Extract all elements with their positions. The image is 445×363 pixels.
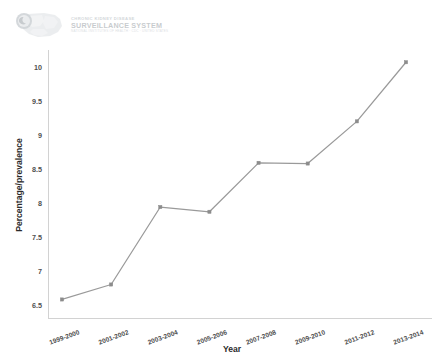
data-point-marker bbox=[257, 161, 260, 164]
x-tick-label: 2009-2010 bbox=[294, 328, 326, 345]
x-tick-label: 2001-2002 bbox=[97, 328, 129, 345]
data-point-marker bbox=[110, 283, 113, 286]
x-tick-label: 2007-2008 bbox=[245, 328, 277, 345]
x-tick-label: 2011-2012 bbox=[344, 328, 376, 345]
data-point-marker bbox=[306, 162, 309, 165]
data-point-marker bbox=[355, 120, 358, 123]
y-tick-label: 7 bbox=[38, 267, 42, 276]
y-tick-label: 9 bbox=[38, 131, 42, 140]
data-series-line bbox=[62, 62, 406, 299]
y-tick-label: 6.5 bbox=[32, 301, 42, 310]
chart-canvas: 6.577.588.599.510 1999-20002001-20022003… bbox=[0, 0, 445, 363]
data-point-markers bbox=[60, 61, 407, 301]
data-point-marker bbox=[208, 210, 211, 213]
y-tick-label: 8.5 bbox=[32, 165, 42, 174]
y-tick-label: 9.5 bbox=[32, 97, 42, 106]
x-tick-label: 2003-2004 bbox=[147, 328, 179, 345]
data-point-marker bbox=[159, 205, 162, 208]
y-tick-label: 10 bbox=[34, 63, 42, 72]
x-tick-label: 1999-2000 bbox=[48, 328, 80, 345]
y-axis-tick-labels: 6.577.588.599.510 bbox=[32, 63, 42, 310]
y-tick-label: 7.5 bbox=[32, 233, 42, 242]
x-tick-label: 2013-2014 bbox=[392, 328, 424, 345]
line-chart-figure: 6.577.588.599.510 1999-20002001-20022003… bbox=[0, 0, 445, 363]
x-axis-title: Year bbox=[223, 344, 242, 354]
data-point-marker bbox=[60, 298, 63, 301]
y-axis-title: Percentage/prevalence bbox=[14, 138, 24, 232]
y-tick-label: 8 bbox=[38, 199, 42, 208]
data-point-marker bbox=[404, 61, 407, 64]
